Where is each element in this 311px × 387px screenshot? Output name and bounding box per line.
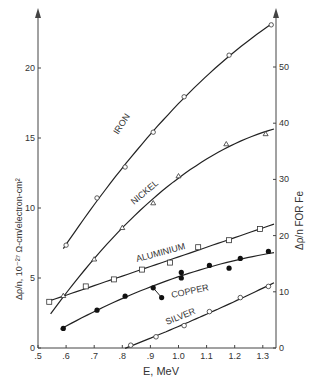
data-point-copper (179, 270, 184, 275)
x-axis-label: E, MeV (143, 365, 180, 377)
y-axis-label-left: Δρ/n, 10⁻²⁷ Ω-cm/electron-cm² (14, 178, 24, 300)
y-tick-label-right: 0 (279, 343, 284, 353)
plot-area: .5.6.7.8.91.01.11.21.3051015200102030405… (0, 0, 311, 387)
data-point-iron (182, 95, 186, 99)
x-tick-label: 1.0 (172, 351, 185, 361)
arrow-up-icon (35, 8, 41, 18)
label-silver: SILVER (164, 306, 197, 327)
data-point-aluminium (257, 227, 262, 232)
curve-aluminium (49, 224, 274, 301)
x-tick-label: .9 (147, 351, 155, 361)
data-point-copper (226, 266, 231, 271)
data-point-copper (238, 256, 243, 261)
y-tick-label-right: 50 (279, 62, 289, 72)
data-point-silver (238, 295, 243, 300)
data-point-aluminium (227, 238, 232, 243)
data-point-copper (159, 295, 164, 300)
x-tick-label: .5 (34, 351, 42, 361)
label-aluminium: ALUMINIUM (135, 241, 186, 264)
data-point-silver (154, 335, 159, 340)
data-point-silver (207, 309, 212, 314)
y-tick-label-left: 5 (30, 273, 35, 283)
data-point-aluminium (139, 267, 144, 272)
resistivity-chart: .5.6.7.8.91.01.11.21.3051015200102030405… (0, 0, 311, 387)
data-point-iron (269, 23, 273, 27)
data-point-iron (227, 53, 231, 57)
data-point-nickel (151, 201, 156, 205)
data-point-copper (151, 285, 156, 290)
data-point-aluminium (83, 284, 88, 289)
y-tick-label-left: 0 (30, 343, 35, 353)
data-point-copper (123, 294, 128, 299)
x-tick-label: 1.3 (257, 351, 270, 361)
x-tick-label: .6 (62, 351, 70, 361)
label-copper: COPPER (170, 282, 210, 300)
markers (47, 23, 274, 348)
data-point-silver (266, 284, 271, 289)
data-point-copper (207, 263, 212, 268)
data-point-iron (123, 165, 127, 169)
y-tick-label-left: 20 (25, 63, 35, 73)
data-point-aluminium (196, 245, 201, 250)
y-tick-label-right: 40 (279, 118, 289, 128)
data-point-silver (128, 343, 133, 348)
data-point-aluminium (111, 277, 116, 282)
data-point-copper (94, 308, 99, 313)
data-point-nickel (176, 174, 181, 178)
label-nickel: NICKEL (129, 178, 160, 207)
data-point-iron (95, 196, 99, 200)
y-tick-label-right: 20 (279, 231, 289, 241)
curve-iron (63, 23, 272, 248)
data-point-silver (182, 323, 187, 328)
y-axis-label-right: Δρ/n FOR Fe (294, 191, 305, 250)
data-point-iron (64, 243, 68, 247)
y-tick-label-left: 10 (25, 203, 35, 213)
x-tick-label: .8 (119, 351, 127, 361)
y-tick-label-left: 15 (25, 133, 35, 143)
x-tick-label: 1.1 (200, 351, 213, 361)
data-point-copper (61, 326, 66, 331)
data-point-aluminium (47, 299, 52, 304)
label-iron: IRON (111, 112, 132, 136)
data-point-aluminium (168, 260, 173, 265)
data-point-iron (151, 130, 155, 134)
data-point-copper (266, 249, 271, 254)
y-tick-label-right: 10 (279, 287, 289, 297)
x-tick-label: .7 (90, 351, 98, 361)
arrow-up-icon (273, 8, 279, 18)
data-point-nickel (224, 141, 229, 145)
y-tick-label-right: 30 (279, 174, 289, 184)
x-tick-label: 1.2 (228, 351, 241, 361)
data-point-copper (179, 275, 184, 280)
